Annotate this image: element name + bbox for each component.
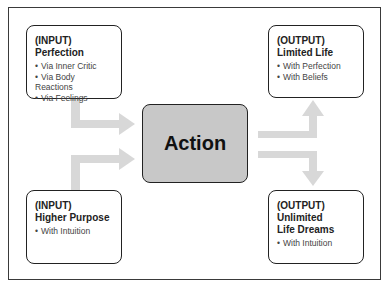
box-tag: (INPUT) — [35, 200, 113, 212]
action-box: Action — [142, 104, 248, 183]
arrow-output-limited-life-icon — [258, 100, 324, 138]
output-box-unlimited-life-dreams: (OUTPUT) Unlimited Life Dreams With Intu… — [268, 190, 364, 264]
box-items: With Intuition — [277, 238, 355, 249]
box-tag: (OUTPUT) — [277, 35, 355, 47]
box-tag: (OUTPUT) — [277, 200, 355, 212]
input-box-perfection: (INPUT) Perfection Via Inner Critic Via … — [26, 25, 122, 99]
list-item: Via Feelings — [35, 93, 113, 104]
box-title: Limited Life — [277, 47, 355, 59]
box-tag: (INPUT) — [35, 35, 113, 47]
arrow-output-unlimited-icon — [258, 151, 324, 186]
output-box-limited-life: (OUTPUT) Limited Life With Perfection Wi… — [268, 25, 364, 98]
box-title: Unlimited — [277, 212, 355, 224]
action-label: Action — [164, 132, 226, 155]
box-items: Via Inner Critic Via Body Reactions Via … — [35, 61, 113, 103]
list-item: Via Inner Critic — [35, 61, 113, 72]
box-title: Higher Purpose — [35, 212, 113, 224]
box-items: With Perfection With Beliefs — [277, 61, 355, 82]
box-title-line2: Life Dreams — [277, 224, 355, 236]
arrow-input-perfection-icon — [71, 98, 135, 135]
list-item: With Perfection — [277, 61, 355, 72]
list-item: With Intuition — [277, 238, 355, 249]
box-items: With Intuition — [35, 226, 113, 237]
box-title: Perfection — [35, 47, 113, 59]
list-item: With Beliefs — [277, 72, 355, 83]
list-item: Via Body Reactions — [35, 72, 113, 93]
input-box-higher-purpose: (INPUT) Higher Purpose With Intuition — [26, 190, 122, 264]
arrow-input-higher-purpose-icon — [71, 148, 135, 193]
list-item: With Intuition — [35, 226, 113, 237]
